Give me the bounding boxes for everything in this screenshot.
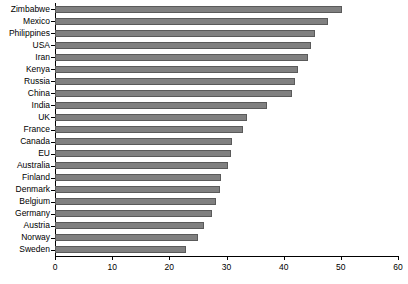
category-label-denmark: Denmark xyxy=(0,185,50,194)
bar-usa xyxy=(55,42,311,49)
bar-mexico xyxy=(55,18,328,25)
category-label-russia: Russia xyxy=(0,77,50,86)
bar-belgium xyxy=(55,198,216,205)
bar-eu xyxy=(55,150,231,157)
x-axis-label-60: 60 xyxy=(393,263,402,272)
category-label-philippines: Philippines xyxy=(0,29,50,38)
bar-fill xyxy=(55,198,216,205)
x-axis-label-30: 30 xyxy=(222,263,231,272)
category-label-norway: Norway xyxy=(0,233,50,242)
bar-china xyxy=(55,90,292,97)
bar-fill xyxy=(55,30,315,37)
x-axis-label-50: 50 xyxy=(336,263,345,272)
category-label-china: China xyxy=(0,89,50,98)
bar-fill xyxy=(55,78,295,85)
bar-austria xyxy=(55,222,204,229)
x-axis-tick-40 xyxy=(284,256,285,260)
category-label-kenya: Kenya xyxy=(0,65,50,74)
x-axis-tick-10 xyxy=(112,256,113,260)
category-label-uk: UK xyxy=(0,113,50,122)
bar-norway xyxy=(55,234,198,241)
x-axis-label-10: 10 xyxy=(107,263,116,272)
bar-fill xyxy=(55,90,292,97)
bar-finland xyxy=(55,174,221,181)
bar-fill xyxy=(55,66,298,73)
category-label-mexico: Mexico xyxy=(0,17,50,26)
bar-fill xyxy=(55,222,204,229)
bar-fill xyxy=(55,18,328,25)
bar-fill xyxy=(55,186,220,193)
bar-fill xyxy=(55,6,342,13)
category-label-germany: Germany xyxy=(0,209,50,218)
bar-france xyxy=(55,126,243,133)
x-axis-tick-50 xyxy=(341,256,342,260)
category-label-zimbabwe: Zimbabwe xyxy=(0,5,50,14)
bar-fill xyxy=(55,174,221,181)
bar-fill xyxy=(55,126,243,133)
category-label-belgium: Belgium xyxy=(0,197,50,206)
bar-iran xyxy=(55,54,308,61)
bar-russia xyxy=(55,78,295,85)
bar-fill xyxy=(55,210,212,217)
category-label-france: France xyxy=(0,125,50,134)
bar-fill xyxy=(55,234,198,241)
bar-fill xyxy=(55,54,308,61)
x-axis-tick-0 xyxy=(55,256,56,260)
category-label-eu: EU xyxy=(0,149,50,158)
category-label-canada: Canada xyxy=(0,137,50,146)
bar-fill xyxy=(55,138,232,145)
bar-sweden xyxy=(55,246,186,253)
bar-philippines xyxy=(55,30,315,37)
x-axis-tick-60 xyxy=(398,256,399,260)
category-label-finland: Finland xyxy=(0,173,50,182)
bar-fill xyxy=(55,150,231,157)
bar-kenya xyxy=(55,66,298,73)
bar-fill xyxy=(55,42,311,49)
bar-chart: ZimbabweMexicoPhilippinesUSAIranKenyaRus… xyxy=(0,0,408,284)
bar-denmark xyxy=(55,186,220,193)
bar-zimbabwe xyxy=(55,6,342,13)
category-label-usa: USA xyxy=(0,41,50,50)
x-axis-tick-30 xyxy=(227,256,228,260)
x-axis-tick-20 xyxy=(169,256,170,260)
bar-uk xyxy=(55,114,247,121)
bar-canada xyxy=(55,138,232,145)
category-label-sweden: Sweden xyxy=(0,245,50,254)
bar-fill xyxy=(55,114,247,121)
category-label-austria: Austria xyxy=(0,221,50,230)
category-label-iran: Iran xyxy=(0,53,50,62)
bar-fill xyxy=(55,246,186,253)
bar-australia xyxy=(55,162,228,169)
x-axis-label-40: 40 xyxy=(279,263,288,272)
x-axis-label-20: 20 xyxy=(165,263,174,272)
category-label-australia: Australia xyxy=(0,161,50,170)
bar-fill xyxy=(55,102,267,109)
x-axis-label-0: 0 xyxy=(53,263,58,272)
category-label-india: India xyxy=(0,101,50,110)
bar-germany xyxy=(55,210,212,217)
bar-india xyxy=(55,102,267,109)
bar-fill xyxy=(55,162,228,169)
